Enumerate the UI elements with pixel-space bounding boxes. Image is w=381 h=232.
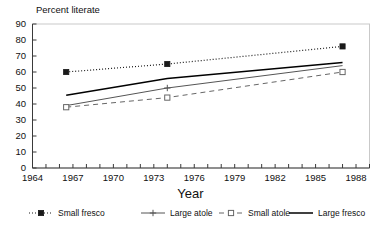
legend-item-label: Small atole	[248, 208, 290, 218]
series-line	[66, 62, 342, 95]
x-tick-label: 1970	[95, 172, 131, 183]
legend-swatch-none-icon	[288, 207, 314, 219]
x-tick-label: 1964	[15, 172, 51, 183]
axes-frame	[33, 24, 370, 168]
y-tick-label: 50	[2, 82, 26, 93]
y-tick-label: 60	[2, 66, 26, 77]
y-tick-label: 10	[2, 146, 26, 157]
x-axis-ticks	[33, 164, 370, 168]
series-markers	[64, 44, 346, 110]
data-point-marker	[164, 85, 170, 91]
y-axis-ticks	[33, 24, 37, 168]
legend-item-label: Small fresco	[58, 208, 105, 218]
y-axis-title: Percent literate	[36, 4, 100, 15]
x-tick-label: 1979	[217, 172, 253, 183]
legend-swatch-filled-square-icon	[28, 207, 54, 219]
series-line	[66, 66, 342, 106]
data-point-marker	[165, 61, 170, 66]
series-line	[66, 72, 342, 107]
data-point-marker	[64, 105, 69, 110]
legend-item[interactable]: Small atole	[218, 205, 290, 221]
legend-item-label: Large atole	[170, 208, 213, 218]
series-lines	[66, 46, 342, 107]
chart-container: Percent literate Year 010203040506070809…	[0, 0, 381, 232]
x-tick-label: 1976	[176, 172, 212, 183]
y-tick-label: 20	[2, 130, 26, 141]
series-line	[66, 46, 342, 72]
legend-item[interactable]: Large fresco	[288, 205, 365, 221]
x-axis-title: Year	[0, 186, 381, 201]
legend-item[interactable]: Small fresco	[28, 205, 105, 221]
y-tick-label: 30	[2, 114, 26, 125]
data-point-marker	[165, 95, 170, 100]
x-tick-label: 1973	[136, 172, 172, 183]
legend-swatch-open-square-icon	[218, 207, 244, 219]
legend-item-label: Large fresco	[318, 208, 365, 218]
y-tick-label: 70	[2, 50, 26, 61]
data-point-marker	[340, 44, 345, 49]
data-point-marker	[340, 69, 345, 74]
x-tick-label: 1988	[338, 172, 374, 183]
x-tick-label: 1982	[257, 172, 293, 183]
y-tick-label: 40	[2, 98, 26, 109]
legend-item[interactable]: Large atole	[140, 205, 213, 221]
legend-swatch-plus-icon	[140, 207, 166, 219]
data-point-marker	[64, 69, 69, 74]
y-tick-label: 90	[2, 18, 26, 29]
chart-legend: Small frescoLarge atoleSmall atoleLarge …	[0, 205, 381, 225]
x-tick-label: 1967	[55, 172, 91, 183]
y-tick-label: 80	[2, 34, 26, 45]
x-tick-label: 1985	[298, 172, 334, 183]
